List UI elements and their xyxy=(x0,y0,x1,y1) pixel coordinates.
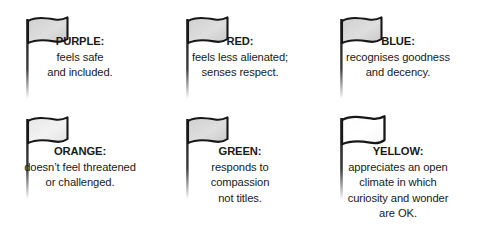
flag-cell-red: RED: feels less alienated; senses respec… xyxy=(160,12,320,116)
flag-line: doesn’t feel threatened xyxy=(0,160,160,176)
flag-line: and decency. xyxy=(318,65,478,81)
flag-label: YELLOW: xyxy=(318,144,478,160)
flag-line: responds to xyxy=(160,160,320,176)
flag-label: ORANGE: xyxy=(0,144,160,160)
flag-line: are OK. xyxy=(318,206,478,222)
flag-line: senses respect. xyxy=(160,65,320,81)
flag-line: and included. xyxy=(0,65,160,81)
flag-line: not titles. xyxy=(160,191,320,207)
flag-line: appreciates an open xyxy=(318,160,478,176)
flag-cell-yellow: YELLOW: appreciates an open climate in w… xyxy=(318,112,478,232)
flag-line: curiosity and wonder xyxy=(318,191,478,207)
flag-caption: YELLOW: appreciates an open climate in w… xyxy=(318,144,478,222)
flag-label: GREEN: xyxy=(160,144,320,160)
flag-label: BLUE: xyxy=(318,34,478,50)
flag-line: feels less alienated; xyxy=(160,50,320,66)
flag-caption: ORANGE: doesn’t feel threatened or chall… xyxy=(0,144,160,191)
flag-label: RED: xyxy=(160,34,320,50)
flag-line: compassion xyxy=(160,175,320,191)
flag-cell-green: GREEN: responds to compassion not titles… xyxy=(160,112,320,232)
flag-caption: BLUE: recognises goodness and decency. xyxy=(318,34,478,81)
flag-cell-purple: PURPLE: feels safe and included. xyxy=(0,12,160,116)
flag-caption: RED: feels less alienated; senses respec… xyxy=(160,34,320,81)
flag-line: feels safe xyxy=(0,50,160,66)
flag-label: PURPLE: xyxy=(0,34,160,50)
flag-line: climate in which xyxy=(318,175,478,191)
flag-cell-orange: ORANGE: doesn’t feel threatened or chall… xyxy=(0,112,160,232)
flag-line: recognises goodness xyxy=(318,50,478,66)
flag-caption: PURPLE: feels safe and included. xyxy=(0,34,160,81)
flag-cell-blue: BLUE: recognises goodness and decency. xyxy=(318,12,478,116)
flag-grid: PURPLE: feels safe and included. xyxy=(0,0,478,232)
flag-caption: GREEN: responds to compassion not titles… xyxy=(160,144,320,206)
flag-line: or challenged. xyxy=(0,175,160,191)
